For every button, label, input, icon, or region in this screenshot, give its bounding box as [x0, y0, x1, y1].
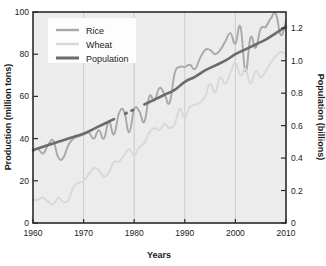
- bottom-tick-label: 1980: [125, 228, 144, 238]
- left-axis-tick-labels: 020406080100: [15, 7, 29, 228]
- x-axis-title: Years: [147, 250, 171, 260]
- production-population-line-chart: 020406080100 00.20.40.60.81.01.2 1960197…: [0, 0, 326, 266]
- right-tick-label: 0.4: [291, 153, 303, 163]
- right-tick-label: 1.2: [291, 23, 303, 33]
- bottom-tick-label: 2000: [226, 228, 245, 238]
- bottom-tick-label: 1970: [74, 228, 93, 238]
- right-tick-label: 1.0: [291, 56, 303, 66]
- legend-label-wheat: Wheat: [86, 40, 113, 50]
- y-axis-title: Production (million tons): [3, 64, 13, 171]
- right-tick-label: 0.2: [291, 186, 303, 196]
- left-tick-label: 100: [15, 7, 29, 17]
- left-tick-label: 40: [20, 134, 30, 144]
- y2-axis-title: Population (billions): [316, 74, 326, 161]
- chart-figure: 020406080100 00.20.40.60.81.01.2 1960197…: [0, 0, 326, 266]
- legend-label-population: Population: [86, 54, 129, 64]
- chart-legend: RiceWheatPopulation: [48, 18, 136, 64]
- right-tick-label: 0.6: [291, 121, 303, 131]
- right-tick-label: 0: [291, 218, 296, 228]
- bottom-tick-label: 2010: [277, 228, 296, 238]
- right-axis-tick-labels: 00.20.40.60.81.01.2: [291, 23, 303, 228]
- left-tick-label: 0: [24, 218, 29, 228]
- bottom-tick-label: 1990: [175, 228, 194, 238]
- left-tick-label: 60: [20, 91, 30, 101]
- legend-label-rice: Rice: [86, 26, 104, 36]
- right-tick-label: 0.8: [291, 88, 303, 98]
- bottom-tick-label: 1960: [24, 228, 43, 238]
- left-tick-label: 20: [20, 176, 30, 186]
- bottom-axis-tick-labels: 196019701980199020002010: [24, 228, 296, 238]
- left-tick-label: 80: [20, 49, 30, 59]
